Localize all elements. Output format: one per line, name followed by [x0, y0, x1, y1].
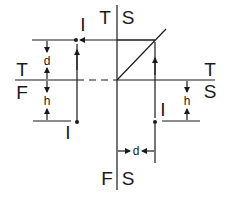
axis-label-bottom-left: F — [101, 168, 113, 189]
point-label-upper-left: I — [80, 14, 85, 35]
axis-label-bottom-right: S — [122, 168, 135, 189]
lower-right-point — [153, 120, 157, 124]
point-label-lower-left: I — [65, 122, 70, 143]
point-label-lower-right: I — [160, 99, 165, 120]
axis-label-left-upper: T — [16, 59, 28, 80]
dim-label-h-lower-right: h — [184, 94, 191, 108]
dim-label-h-lower-left: h — [44, 94, 51, 108]
lower-left-point — [75, 120, 79, 124]
dim-label-d-upper: d — [44, 54, 51, 68]
axis-label-right-upper: T — [204, 59, 216, 80]
axis-label-right-lower: S — [204, 81, 217, 102]
axis-label-left-lower: F — [16, 82, 28, 103]
diagonal-line — [117, 29, 166, 80]
axis-label-top-right: S — [122, 7, 135, 28]
dim-label-d-bottom: d — [133, 144, 140, 158]
diagram-canvas: d h h d I I I T S T F T S F S — [0, 0, 231, 203]
upper-left-point — [74, 38, 78, 42]
axis-label-top-left: T — [99, 7, 111, 28]
